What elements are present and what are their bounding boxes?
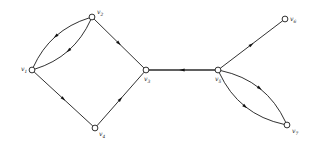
node-label-v7: v7	[292, 127, 299, 136]
node-layer	[29, 14, 290, 131]
node-label-v6: v6	[290, 15, 297, 24]
node-v5	[215, 67, 221, 73]
node-v2	[89, 14, 95, 20]
node-v3	[143, 67, 149, 73]
edge-v2-to-v1	[33, 18, 89, 67]
edge-v2-to-v1	[35, 20, 91, 69]
edge-v5-to-v7	[219, 73, 284, 125]
edge-layer	[33, 18, 286, 126]
graph-canvas: v1v2v3v4v5v6v7	[0, 0, 311, 149]
node-v4	[92, 125, 98, 131]
node-v6	[282, 16, 288, 22]
node-label-v2: v2	[97, 8, 104, 17]
node-v1	[29, 67, 35, 73]
edge-v5-to-v7	[221, 71, 286, 123]
node-label-v4: v4	[99, 130, 106, 139]
arrowhead-v5-to-v3	[179, 69, 184, 72]
directed-graph-figure: v1v2v3v4v5v6v7	[0, 0, 311, 149]
node-v7	[284, 122, 290, 128]
node-label-v1: v1	[21, 65, 27, 74]
arrow-layer	[54, 33, 262, 108]
label-layer: v1v2v3v4v5v6v7	[21, 8, 299, 139]
node-label-v3: v3	[144, 75, 151, 84]
